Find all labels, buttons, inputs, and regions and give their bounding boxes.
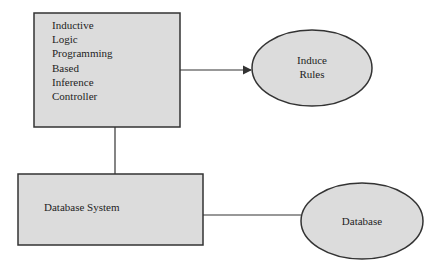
label-line: Induce [272,53,352,67]
label-line: Controller [52,89,113,103]
database-label: Database [322,214,402,228]
induce-rules-label: Induce Rules [272,53,352,81]
label-line: Based [52,61,113,75]
label-line: Rules [272,67,352,81]
label-line: Inference [52,75,113,89]
label-line: Inductive [52,18,113,32]
label-line: Programming [52,46,113,60]
ilp-controller-label: Inductive Logic Programming Based Infere… [52,18,113,103]
label-line: Logic [52,32,113,46]
database-system-label: Database System [44,200,119,214]
